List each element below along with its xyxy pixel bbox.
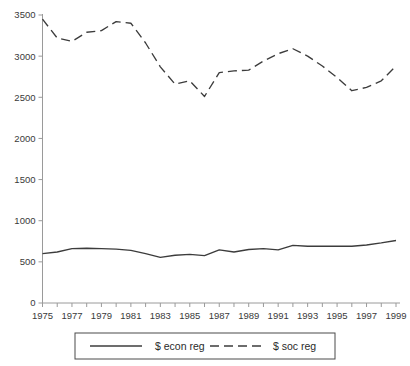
x-axis-tick-label: 1991 <box>268 310 289 321</box>
y-axis-tick-label: 500 <box>20 256 36 267</box>
y-axis-tick-label: 2500 <box>14 92 35 103</box>
x-axis-tick-label: 1997 <box>356 310 377 321</box>
x-axis-tick-label: 1987 <box>209 310 230 321</box>
series-lines <box>43 19 397 257</box>
series-solid <box>43 240 397 257</box>
series-dashed <box>43 19 397 96</box>
chart-container: 0500100015002000250030003500 19751977197… <box>0 0 410 366</box>
x-axis-tick-label: 1979 <box>91 310 112 321</box>
y-axis-tick-label: 1500 <box>14 174 35 185</box>
y-axis-tick-label: 2000 <box>14 133 35 144</box>
x-axis-tick-label: 1981 <box>120 310 141 321</box>
x-axis-tick-label: 1985 <box>179 310 200 321</box>
y-axis: 0500100015002000250030003500 <box>14 9 42 308</box>
x-axis-tick-label: 1983 <box>150 310 171 321</box>
y-axis-tick-label: 3000 <box>14 51 35 62</box>
legend-label: $ soc reg <box>273 340 316 352</box>
x-axis-tick-label: 1989 <box>238 310 259 321</box>
y-axis-tick-label: 3500 <box>14 9 35 20</box>
x-axis: 1975197719791981198319851987198919911993… <box>32 303 407 321</box>
line-chart: 0500100015002000250030003500 19751977197… <box>0 0 410 366</box>
x-axis-tick-label: 1995 <box>327 310 348 321</box>
y-axis-tick-label: 1000 <box>14 215 35 226</box>
x-axis-tick-label: 1975 <box>32 310 53 321</box>
x-axis-tick-label: 1999 <box>385 310 406 321</box>
legend-label: $ econ reg <box>155 340 205 352</box>
x-axis-tick-label: 1993 <box>297 310 318 321</box>
chart-legend: $ econ reg$ soc reg <box>75 333 335 359</box>
x-axis-tick-label: 1977 <box>61 310 82 321</box>
y-axis-tick-label: 0 <box>30 297 35 308</box>
